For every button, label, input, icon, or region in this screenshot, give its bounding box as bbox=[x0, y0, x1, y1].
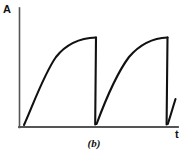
waveform-plot bbox=[0, 0, 188, 155]
figure-container: A t (b) bbox=[0, 0, 188, 155]
waveform-fall-cycle-2 bbox=[167, 38, 168, 125]
waveform-rise-cycle-2 bbox=[97, 38, 168, 125]
figure-caption: (b) bbox=[0, 138, 188, 149]
y-axis-label: A bbox=[3, 4, 11, 15]
waveform-rise-cycle-3-partial bbox=[168, 99, 176, 124]
waveform-fall-cycle-1 bbox=[95, 38, 96, 125]
waveform-rise-cycle-1 bbox=[24, 38, 96, 126]
